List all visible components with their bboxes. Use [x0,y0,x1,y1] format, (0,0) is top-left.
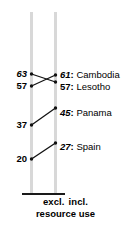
right-separator-cambodia: : [71,69,74,80]
left-value-spain: 20 [16,154,27,164]
series-name-spain: Spain [76,141,100,152]
left-value-panama: 37 [16,120,27,130]
right-separator-spain: : [71,141,74,152]
series-name-lesotho: Lesotho [76,81,110,92]
series-name-cambodia: Cambodia [76,69,119,80]
left-value-spain-text: 20 [16,153,27,164]
slope-chart: 63 57 37 20 61: Cambodia 57: Lesotho 45:… [0,0,131,228]
right-value-lesotho-text: 57 [60,81,71,92]
right-value-spain-text: 27 [60,141,71,152]
marker-lesotho-incl [54,73,57,76]
left-value-lesotho: 57 [16,81,27,91]
axis-caption-excl: excl. [43,196,65,207]
left-value-cambodia: 63 [16,69,27,79]
marker-spain-incl [54,141,57,144]
axis-caption-sub: resource use [0,208,131,219]
marker-panama-incl [54,106,57,109]
marker-lesotho-excl [30,84,33,87]
axis-captions: excl.incl. [0,196,131,207]
series-name-panama: Panama [76,107,111,118]
marker-spain-excl [30,157,33,160]
marker-panama-excl [30,123,33,126]
axis-baseline [22,193,65,195]
marker-cambodia-excl [30,72,33,75]
right-separator-lesotho: : [71,81,74,92]
right-label-spain: 27: Spain [60,142,101,152]
connector-spain [32,143,56,159]
left-value-panama-text: 37 [16,119,27,130]
right-label-panama: 45: Panama [60,108,112,118]
left-value-lesotho-text: 57 [16,80,27,91]
right-label-cambodia: 61: Cambodia [60,70,120,80]
left-value-cambodia-text: 63 [16,68,27,79]
right-separator-panama: : [71,107,74,118]
right-value-panama-text: 45 [60,107,71,118]
connector-panama [32,108,56,125]
marker-cambodia-incl [54,80,57,83]
axis-caption-incl: incl. [69,196,89,207]
right-label-lesotho: 57: Lesotho [60,82,110,92]
right-value-cambodia-text: 61 [60,69,71,80]
